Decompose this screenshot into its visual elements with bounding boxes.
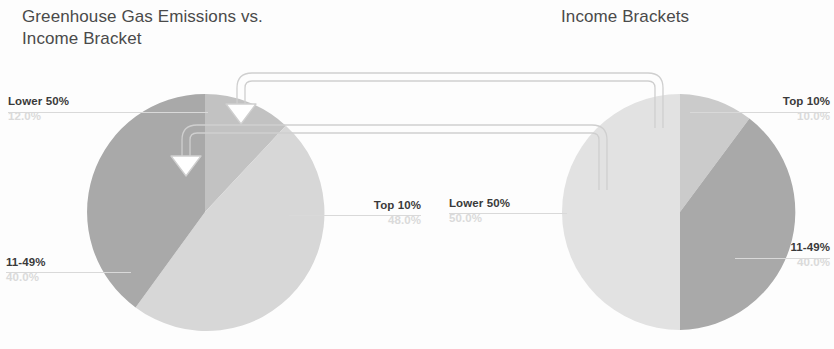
callout-income-top10: Top 10% 10.0% <box>762 94 830 123</box>
callout-category: Top 10% <box>351 198 421 212</box>
callout-category: Top 10% <box>762 94 830 108</box>
callout-value: 40.0% <box>6 270 46 284</box>
callout-value: 10.0% <box>762 109 830 123</box>
callout-income-lower50: Lower 50% 50.0% <box>449 196 510 225</box>
callout-emissions-11-49: 11-49% 40.0% <box>6 255 46 284</box>
pie-chart-income-brackets-svg <box>560 92 800 332</box>
callout-emissions-lower50: Lower 50% 12.0% <box>8 94 69 123</box>
pie-chart-emissions-svg <box>85 92 325 332</box>
slide-canvas: Greenhouse Gas Emissions vs. Income Brac… <box>0 0 834 349</box>
callout-emissions-top10: Top 10% 48.0% <box>351 198 421 227</box>
callout-value: 12.0% <box>8 109 69 123</box>
page-title-emissions: Greenhouse Gas Emissions vs. Income Brac… <box>22 6 322 50</box>
callout-category: Lower 50% <box>8 94 69 108</box>
callout-category: 11-49% <box>6 255 46 269</box>
pie-chart-income-brackets <box>560 92 800 332</box>
callout-value: 48.0% <box>351 213 421 227</box>
callout-value: 50.0% <box>449 211 510 225</box>
callout-category: Lower 50% <box>449 196 510 210</box>
callout-value: 40.0% <box>762 255 830 269</box>
pie-chart-emissions <box>85 92 325 332</box>
page-title-income-brackets: Income Brackets <box>561 6 821 28</box>
callout-income-11-49: 11-49% 40.0% <box>762 240 830 269</box>
callout-category: 11-49% <box>762 240 830 254</box>
pie-slice-income-lower50[interactable] <box>562 94 680 330</box>
